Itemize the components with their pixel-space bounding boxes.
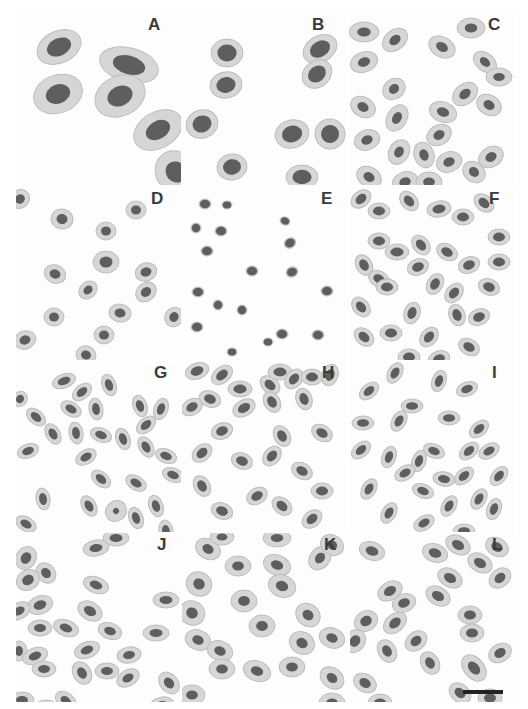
nucleus	[200, 200, 210, 209]
erythrocyte	[285, 265, 300, 279]
nucleus	[457, 213, 469, 222]
nucleus	[160, 596, 173, 604]
erythrocyte	[23, 405, 49, 430]
panel-c: C	[349, 12, 515, 185]
panel-g: G	[16, 361, 181, 532]
erythrocyte	[31, 23, 86, 71]
cells-image	[349, 187, 515, 360]
erythrocyte	[425, 31, 459, 62]
panel-d: D	[16, 187, 181, 360]
erythrocyte	[99, 372, 120, 397]
erythrocyte	[157, 519, 175, 532]
erythrocyte	[293, 386, 316, 412]
erythrocyte	[68, 658, 96, 688]
erythrocyte	[416, 648, 444, 678]
erythrocyte	[451, 464, 477, 489]
panel-label: C	[488, 16, 500, 33]
panel-e: E	[182, 187, 348, 360]
nucleus	[466, 629, 478, 638]
erythrocyte	[349, 48, 381, 76]
erythrocyte	[426, 348, 452, 360]
nucleus	[34, 624, 46, 632]
nucleus	[292, 170, 311, 184]
nucleus	[131, 206, 141, 215]
nucleus	[273, 368, 286, 377]
erythrocyte	[88, 425, 113, 446]
erythrocyte	[405, 256, 431, 279]
erythrocyte	[88, 467, 114, 492]
nucleus	[271, 534, 284, 542]
nucleus	[228, 349, 237, 356]
erythrocyte	[398, 349, 420, 360]
erythrocyte	[75, 277, 101, 302]
erythrocyte	[378, 74, 409, 105]
erythrocyte	[209, 500, 235, 523]
erythrocyte	[457, 18, 485, 38]
nucleus	[193, 288, 203, 297]
nucleus	[150, 629, 163, 637]
erythrocyte	[143, 625, 169, 641]
erythrocyte	[316, 662, 349, 694]
erythrocyte	[433, 148, 464, 176]
nucleus	[101, 227, 111, 236]
erythrocyte	[487, 463, 512, 489]
erythrocyte	[260, 388, 285, 415]
erythrocyte	[453, 524, 475, 532]
erythrocyte	[51, 616, 81, 640]
nucleus	[216, 665, 228, 674]
erythrocyte	[44, 308, 64, 326]
erythrocyte	[208, 69, 244, 100]
nucleus	[493, 233, 505, 242]
erythrocyte	[16, 187, 33, 212]
erythrocyte	[211, 39, 243, 67]
erythrocyte	[77, 493, 100, 519]
erythrocyte	[50, 370, 77, 391]
erythrocyte	[368, 233, 390, 249]
erythrocyte	[285, 627, 319, 659]
scale-bar	[463, 690, 503, 694]
erythrocyte	[215, 226, 227, 236]
panel-label: D	[151, 190, 163, 207]
erythrocyte	[191, 223, 201, 233]
erythrocyte	[134, 434, 157, 460]
erythrocyte	[199, 199, 211, 209]
nucleus	[390, 248, 403, 257]
erythrocyte	[95, 663, 119, 679]
nucleus	[99, 331, 109, 340]
erythrocyte	[192, 287, 204, 297]
erythrocyte	[378, 23, 412, 56]
erythrocyte	[191, 322, 203, 332]
erythrocyte	[437, 493, 460, 519]
erythrocyte	[231, 590, 257, 612]
erythrocyte	[240, 657, 273, 685]
erythrocyte	[473, 90, 506, 120]
cells-image	[16, 533, 181, 702]
erythrocyte	[160, 465, 181, 486]
erythrocyte	[270, 422, 295, 449]
erythrocyte	[16, 512, 39, 532]
erythrocyte	[209, 420, 235, 443]
erythrocyte	[190, 472, 215, 499]
erythrocyte	[263, 338, 273, 346]
erythrocyte	[311, 483, 333, 499]
erythrocyte	[153, 592, 179, 608]
erythrocyte	[183, 361, 211, 383]
erythrocyte	[263, 533, 291, 547]
erythrocyte	[16, 328, 38, 352]
erythrocyte	[16, 692, 34, 702]
erythrocyte	[93, 251, 119, 273]
erythrocyte	[416, 323, 442, 350]
cells-image	[349, 12, 515, 185]
erythrocyte	[383, 361, 406, 386]
erythrocyte	[265, 571, 299, 601]
erythrocyte	[426, 199, 452, 219]
panel-label: B	[312, 16, 324, 33]
erythrocyte	[488, 254, 510, 270]
erythrocyte	[357, 476, 380, 502]
erythrocyte	[282, 236, 297, 251]
erythrocyte	[352, 416, 374, 430]
erythrocyte	[215, 152, 249, 183]
erythrocyte	[268, 493, 295, 519]
cells-image	[16, 12, 181, 185]
erythrocyte	[357, 538, 388, 564]
